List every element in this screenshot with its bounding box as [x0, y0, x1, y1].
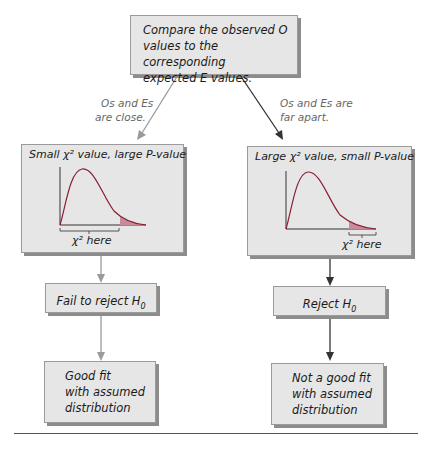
- fail-to-reject-text: Fail to reject H: [56, 294, 140, 308]
- left-edge-label: Os and Es are close.: [95, 96, 153, 124]
- not-good-fit-line-3: distribution: [292, 402, 383, 418]
- right-edge-label: Os and Es are far apart.: [280, 96, 353, 124]
- bottom-divider: [14, 433, 418, 434]
- good-fit-box: Good fit with assumed distribution: [44, 361, 156, 423]
- top-box-line-2: values to the corresponding: [143, 38, 297, 70]
- small-chi-axis-note: χ² here: [72, 233, 111, 249]
- compare-observed-expected-box: Compare the observed O values to the cor…: [130, 15, 298, 75]
- good-fit-line-3: distribution: [65, 400, 155, 416]
- chi-square-curve-large: [248, 147, 413, 257]
- good-fit-line-2: with assumed: [65, 384, 155, 400]
- good-fit-line-1: Good fit: [65, 368, 155, 384]
- h0-subscript: 0: [351, 305, 356, 314]
- large-chi-square-panel: Large χ² value, small P-value χ² here: [247, 146, 412, 256]
- not-good-fit-line-1: Not a good fit: [292, 370, 383, 386]
- reject-box: Reject H0: [273, 286, 386, 316]
- reject-text: Reject H: [303, 297, 351, 311]
- small-chi-square-panel: Small χ² value, large P-value χ² here: [21, 144, 184, 253]
- top-box-line-3: expected E values.: [143, 70, 297, 86]
- not-good-fit-box: Not a good fit with assumed distribution: [271, 363, 384, 425]
- large-chi-axis-note: χ² here: [342, 237, 381, 253]
- h0-subscript: 0: [141, 302, 146, 311]
- fail-to-reject-box: Fail to reject H0: [45, 283, 157, 313]
- top-box-line-1: Compare the observed O: [143, 22, 297, 38]
- not-good-fit-line-2: with assumed: [292, 386, 383, 402]
